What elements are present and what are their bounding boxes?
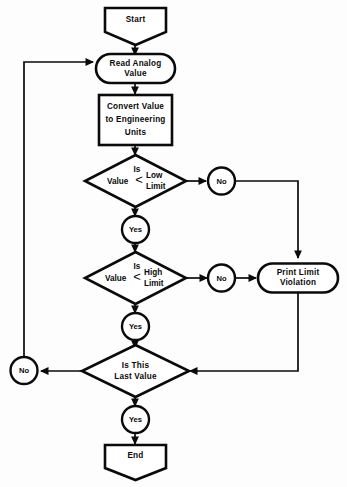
no-last-label: No [19,366,29,375]
decision-last-line2: Last Value [114,372,157,381]
node-decision-last-value[interactable]: Is This Last Value [82,345,189,397]
decision-high-operator: < [133,269,141,284]
edge-print-to-last [190,293,298,371]
decision-last-shape [82,345,189,397]
connector-no-low-limit[interactable]: No [208,168,235,195]
decision-low-limit1: Low [146,171,163,180]
decision-high-operand: Value [105,274,127,283]
decision-low-operand: Value [107,177,129,186]
print-violation-line1: Print Limit [277,268,320,277]
yes-last-label: Yes [129,415,142,424]
node-print-limit-violation[interactable]: Print Limit Violation [258,264,338,293]
decision-low-operator: < [135,172,143,187]
node-start[interactable]: Start [105,8,166,45]
convert-line2: to Engineering [105,115,165,124]
node-convert-value[interactable]: Convert Value to Engineering Units [99,95,172,145]
read-analog-line2: Value [124,69,147,78]
no-low-label: No [216,177,226,186]
decision-last-line1: Is This [122,361,150,370]
convert-line3: Units [125,128,147,137]
flowchart-page: Start Read Analog Value Convert Value to… [0,0,347,487]
node-end[interactable]: End [105,445,166,480]
node-read-analog-value[interactable]: Read Analog Value [96,54,175,83]
flowchart-canvas: Start Read Analog Value Convert Value to… [0,0,347,487]
print-violation-line2: Violation [280,278,316,287]
yes-low-label: Yes [129,225,142,234]
connector-yes-last-value[interactable]: Yes [122,406,149,433]
end-label: End [127,451,143,460]
connector-yes-low-limit[interactable]: Yes [122,216,149,243]
convert-line1: Convert Value [107,102,164,111]
edge-no-low-to-print [236,181,298,258]
node-decision-low-limit[interactable]: Is Value < Low Limit [85,155,186,207]
yes-high-label: Yes [129,322,142,331]
no-high-label: No [216,274,226,283]
start-shape [105,8,166,45]
connector-yes-high-limit[interactable]: Yes [122,313,149,340]
decision-high-limit2: Limit [144,279,164,288]
decision-high-limit1: High [144,268,162,277]
edge-no-last-to-read [24,62,93,356]
node-decision-high-limit[interactable]: Is Value < High Limit [85,252,186,304]
start-label: Start [126,15,146,24]
connector-no-high-limit[interactable]: No [208,265,235,292]
decision-low-limit2: Limit [146,182,166,191]
connector-no-last-value[interactable]: No [11,357,38,384]
read-analog-line1: Read Analog [110,59,162,68]
